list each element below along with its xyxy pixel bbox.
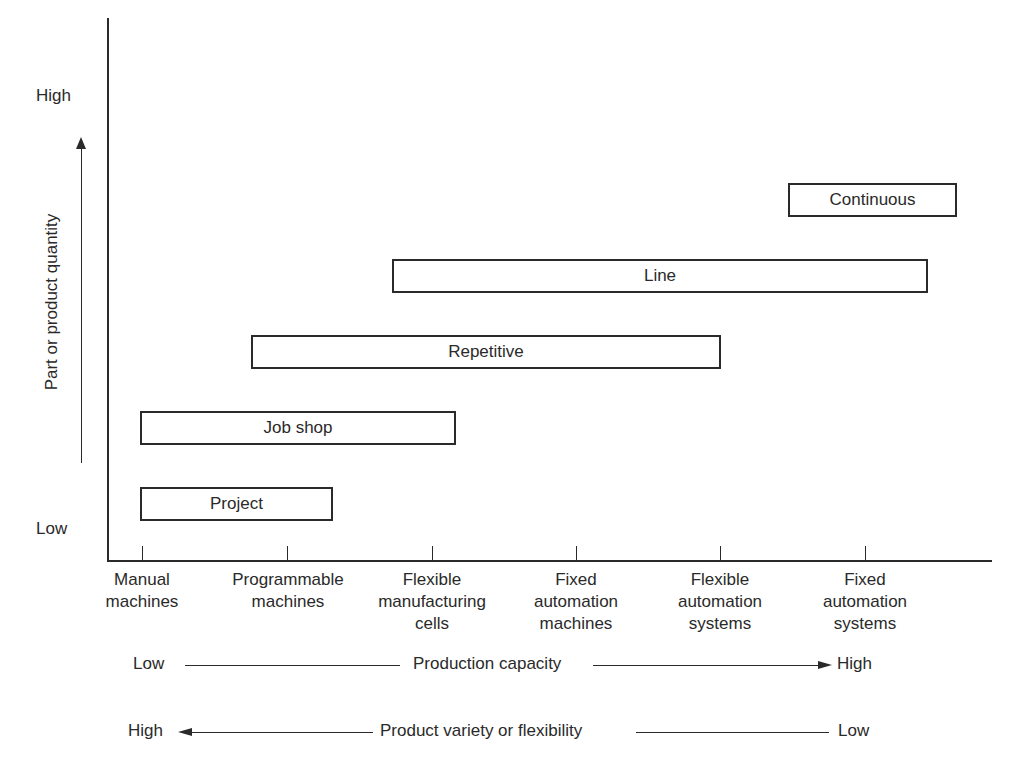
process-label: Repetitive bbox=[448, 342, 524, 362]
x-tick bbox=[142, 546, 143, 561]
variety-line-right bbox=[636, 732, 829, 733]
capacity-label: Production capacity bbox=[413, 654, 561, 676]
x-tick bbox=[432, 546, 433, 561]
x-tick bbox=[576, 546, 577, 561]
y-axis-high-label: High bbox=[36, 86, 71, 106]
process-box-line: Line bbox=[392, 259, 928, 293]
capacity-low-label: Low bbox=[133, 654, 164, 676]
variety-low-label: Low bbox=[838, 721, 869, 743]
process-box-job-shop: Job shop bbox=[140, 411, 456, 445]
y-axis-line bbox=[107, 18, 109, 562]
arrow-left-icon bbox=[178, 728, 192, 736]
x-tick bbox=[287, 546, 288, 561]
y-axis-title: Part or product quantity bbox=[42, 214, 62, 391]
x-label-manual-machines: Manual machines bbox=[57, 569, 227, 613]
process-box-repetitive: Repetitive bbox=[251, 335, 721, 369]
process-label: Continuous bbox=[829, 190, 915, 210]
process-box-project: Project bbox=[140, 487, 333, 521]
arrow-right-icon bbox=[818, 661, 832, 669]
x-label-fixed-automation-systems: Fixed automation systems bbox=[780, 569, 950, 635]
process-label: Project bbox=[210, 494, 263, 514]
capacity-high-label: High bbox=[837, 654, 872, 676]
capacity-line-right bbox=[593, 665, 818, 666]
capacity-line-left bbox=[185, 665, 400, 666]
process-label: Job shop bbox=[264, 418, 333, 438]
x-tick bbox=[865, 546, 866, 561]
x-tick bbox=[720, 546, 721, 561]
variety-line-left bbox=[192, 732, 373, 733]
variety-label: Product variety or flexibility bbox=[380, 721, 582, 743]
process-label: Line bbox=[644, 266, 676, 286]
arrow-up-icon bbox=[76, 137, 86, 149]
variety-high-label: High bbox=[128, 721, 163, 743]
y-axis-low-label: Low bbox=[36, 519, 67, 539]
x-axis-line bbox=[107, 560, 992, 562]
process-box-continuous: Continuous bbox=[788, 183, 957, 217]
y-axis-arrow-shaft bbox=[81, 145, 82, 463]
